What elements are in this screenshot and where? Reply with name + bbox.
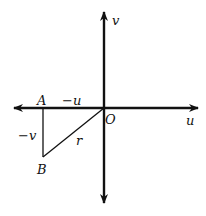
segment-BO-label: r	[76, 133, 83, 148]
segment-BO	[43, 108, 104, 157]
segment-AO-label: −u	[62, 93, 81, 108]
point-B-label: B	[36, 162, 47, 177]
v-axis-label: v	[112, 13, 120, 28]
origin-label: O	[105, 112, 116, 127]
u-axis-label: u	[186, 113, 194, 128]
segment-AB-label: −v	[18, 128, 37, 143]
coordinate-diagram: v u O A B −u −v r	[0, 0, 206, 216]
point-A-label: A	[36, 93, 46, 108]
